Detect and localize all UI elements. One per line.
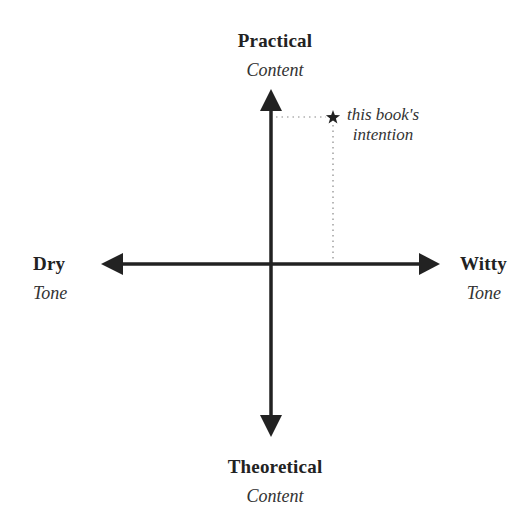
- axis-label-left: Dry Tone: [20, 253, 80, 304]
- axis-label-top: Practical Content: [215, 30, 335, 81]
- arrow-down-icon: [260, 415, 282, 437]
- axis-subtitle-content-bottom: Content: [215, 485, 335, 507]
- quadrant-diagram: Practical Content Theoretical Content Dr…: [0, 0, 530, 528]
- arrow-left-icon: [101, 253, 123, 275]
- star-icon: [326, 110, 340, 124]
- arrow-up-icon: [260, 89, 282, 111]
- axis-subtitle-content-top: Content: [215, 59, 335, 81]
- axis-label-right: Witty Tone: [450, 253, 514, 304]
- axis-title-theoretical: Theoretical: [215, 456, 335, 478]
- annotation-line-2: intention: [346, 125, 420, 145]
- marker-annotation: this book's intention: [346, 105, 420, 145]
- arrow-right-icon: [419, 253, 440, 275]
- axis-title-dry: Dry: [33, 253, 80, 275]
- axis-title-practical: Practical: [215, 30, 335, 52]
- axis-subtitle-tone-right: Tone: [450, 282, 514, 304]
- axis-subtitle-tone-left: Tone: [33, 282, 80, 304]
- annotation-line-1: this book's: [346, 105, 420, 125]
- axis-label-bottom: Theoretical Content: [215, 456, 335, 507]
- axis-title-witty: Witty: [450, 253, 514, 275]
